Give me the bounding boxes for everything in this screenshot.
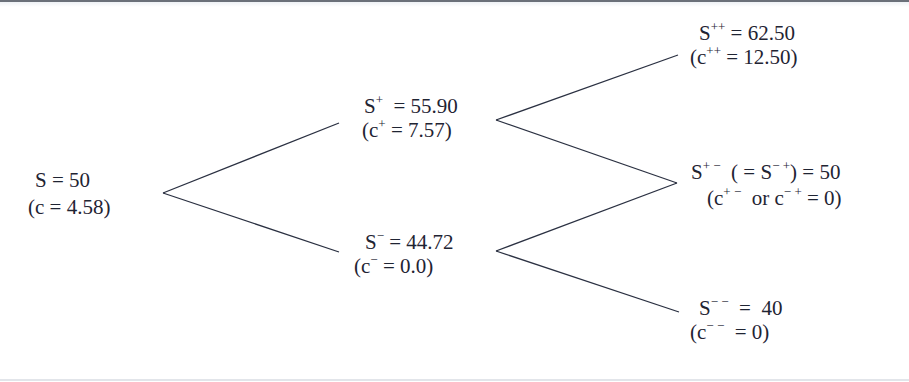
down-price: S− = 44.72 [365, 230, 454, 254]
node-up-up: S++ = 62.50 (c++ = 12.50) [690, 21, 798, 69]
downdown-price: S− − = 40 [699, 296, 782, 320]
binomial-tree-diagram: S = 50 (c = 4.58) S+ = 55.90 (c+ = 7.57)… [0, 0, 909, 382]
node-root: S = 50 (c = 4.58) [35, 168, 110, 219]
upup-price: S++ = 62.50 [699, 21, 798, 45]
downdown-option-value: (c− − = 0) [690, 320, 782, 344]
edge-down-downdown [496, 251, 679, 312]
root-option-value: (c = 4.58) [28, 195, 110, 219]
edge-down-updown [496, 183, 677, 251]
node-up: S+ = 55.90 (c+ = 7.57) [362, 94, 458, 142]
up-option-value: (c+ = 7.57) [362, 118, 458, 142]
node-down-down: S− − = 40 (c− − = 0) [690, 296, 782, 344]
updown-option-value: (c+ − or c− + = 0) [707, 186, 842, 210]
edge-root-down [163, 193, 339, 252]
down-option-value: (c− = 0.0) [354, 254, 454, 278]
root-price: S = 50 [35, 168, 110, 192]
edge-root-up [163, 123, 339, 193]
up-price: S+ = 55.90 [364, 94, 458, 118]
upup-option-value: (c++ = 12.50) [690, 45, 798, 69]
edge-up-upup [496, 55, 678, 120]
edge-up-updown [496, 120, 677, 183]
updown-price: S+ − ( = S− +) = 50 [691, 160, 842, 184]
node-up-down: S+ − ( = S− +) = 50 (c+ − or c− + = 0) [691, 160, 842, 210]
node-down: S− = 44.72 (c− = 0.0) [354, 230, 454, 278]
